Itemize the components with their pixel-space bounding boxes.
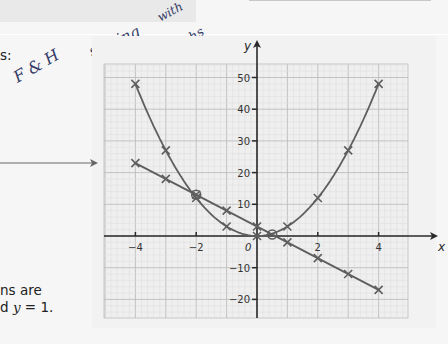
x-tick-label: 4 (375, 242, 381, 253)
x-tick-label: 2 (315, 242, 321, 253)
y-tick-label: −20 (229, 294, 250, 305)
y-tick-label: 50 (237, 73, 250, 84)
y-axis-label: y (243, 39, 252, 53)
origin-label: 0 (245, 242, 251, 253)
y-tick-label: 10 (237, 199, 250, 210)
y-tick-label: 20 (237, 168, 250, 179)
y-tick-label: −10 (229, 263, 250, 274)
grid (92, 36, 436, 328)
x-tick-label: −2 (189, 242, 204, 253)
y-tick-label: 40 (237, 104, 250, 115)
graph-chart: xy0−4−2245040302010−10−20 (0, 0, 448, 344)
x-axis-label: x (437, 240, 446, 254)
y-tick-label: 30 (237, 136, 250, 147)
x-tick-label: −4 (128, 242, 143, 253)
